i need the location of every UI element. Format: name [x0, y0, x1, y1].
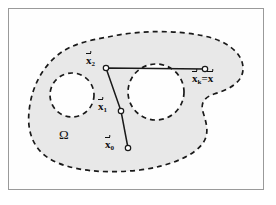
label-xk-base: x — [192, 73, 198, 84]
domain-diagram — [0, 0, 276, 205]
label-x1: x1 — [98, 101, 107, 114]
label-x0-base: x — [105, 139, 111, 150]
figure-container: x2 x1 x0 xk=x Ω — [0, 0, 276, 205]
label-x0-subscript: 0 — [111, 144, 115, 152]
label-x2-base: x — [86, 55, 92, 66]
label-x2-subscript: 2 — [92, 60, 96, 68]
region-fill — [0, 0, 276, 205]
label-domain-omega: Ω — [59, 128, 69, 141]
label-x1-base: x — [98, 101, 104, 112]
label-xk-rhs: x — [208, 73, 214, 84]
point-marker-x0 — [125, 145, 130, 150]
point-marker-x1 — [118, 108, 123, 113]
point-marker-x2 — [103, 65, 108, 70]
label-xk: xk=x — [192, 73, 213, 86]
label-x2: x2 — [86, 55, 95, 68]
label-x0: x0 — [105, 139, 114, 152]
label-x1-subscript: 1 — [104, 106, 108, 114]
